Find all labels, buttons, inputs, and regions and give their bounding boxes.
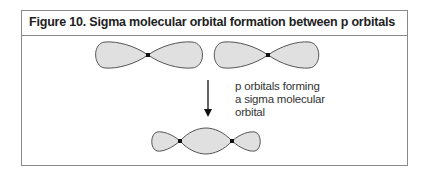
node-point xyxy=(266,53,270,57)
node-point xyxy=(230,139,234,143)
node-point xyxy=(146,53,150,57)
orbital-diagram xyxy=(0,0,429,173)
diagram-caption: p orbitals forming a sigma molecular orb… xyxy=(235,80,325,119)
caption-line: p orbitals forming xyxy=(235,80,325,93)
down-arrow-icon xyxy=(204,80,212,117)
sigma-molecular-orbital xyxy=(152,128,261,154)
caption-line: orbital xyxy=(235,106,325,119)
p-orbital-right xyxy=(214,42,319,68)
p-orbital-left xyxy=(96,42,203,68)
node-point xyxy=(178,139,182,143)
caption-line: a sigma molecular xyxy=(235,93,325,106)
